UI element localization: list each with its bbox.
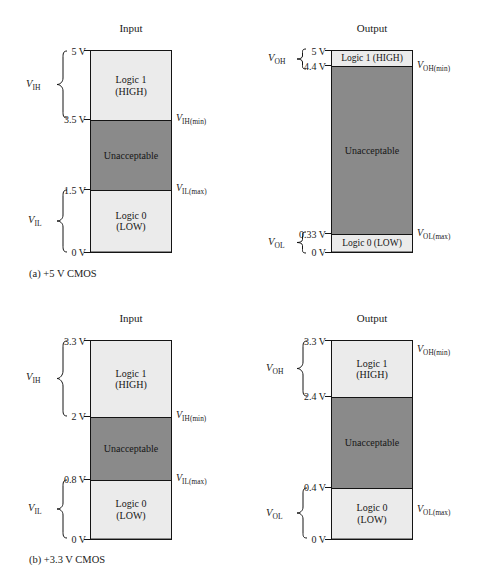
tickmark-a-input-0v [84,252,91,253]
band-unacceptable: Unacceptable [91,418,171,480]
tickmark-b-input-0v [84,539,91,540]
param-b-input-vil-max: VIL(max) [176,472,207,485]
band-logic-high: Logic 1 (HIGH) [91,341,171,417]
brace-a-output-voh [296,48,307,70]
band-logic-low: Logic 0 (LOW) [332,235,412,251]
brace-label-b-input-vil: VIL [28,502,42,515]
tickmark-b-input-3p3v [84,340,91,341]
tickmark-a-output-4p4v [325,65,332,66]
brace-b-output-vol [296,487,308,540]
voltage-bar-b-output: Logic 1 (HIGH) Unacceptable Logic 0 (LOW… [331,340,413,540]
brace-label-a-input-vih: VIH [26,78,41,91]
band-logic-low: Logic 0 (LOW) [91,191,171,251]
brace-label-b-output-voh: VOH [266,362,284,375]
param-b-output-voh-min: VOH(min) [417,343,450,356]
tickmark-a-output-0v [325,252,332,253]
band-logic-high: Logic 1 (HIGH) [91,51,171,120]
tickmark-b-output-2p4v [325,396,332,397]
tickmark-a-input-3p5v [84,119,91,120]
brace-label-a-input-vil: VIL [28,214,42,227]
tickmark-b-output-3p3v [325,340,332,341]
tickmark-a-input-1p5v [84,189,91,190]
brace-a-output-vol [296,231,307,255]
tickmark-a-output-0p33v [325,233,332,234]
voltage-bar-a-input: Logic 1 (HIGH) Unacceptable Logic 0 (LOW… [90,50,172,253]
chart-title-a-input: Input [90,22,172,34]
brace-b-output-voh [296,340,308,397]
brace-a-input-vih [56,50,68,119]
param-a-input-vil-max: VIL(max) [176,182,207,195]
tickmark-b-input-2v [84,416,91,417]
brace-b-input-vil [56,479,68,540]
tickmark-a-input-5v [84,50,91,51]
band-logic-low: Logic 0 (LOW) [332,489,412,538]
brace-label-b-output-vol: VOL [266,507,283,520]
brace-label-a-output-voh: VOH [268,52,286,65]
band-unacceptable: Unacceptable [332,398,412,488]
param-b-input-vih-min: VIH(min) [176,409,206,422]
caption-section-a: (a) +5 V CMOS [29,268,97,279]
param-b-output-vol-max: VOL(max) [417,503,451,516]
brace-a-input-vil [56,189,68,253]
chart-title-b-input: Input [90,312,172,324]
tickmark-b-output-0p4v [325,487,332,488]
param-a-output-voh-min: VOH(min) [417,59,450,72]
brace-label-b-input-vih: VIH [26,371,41,384]
band-logic-high: Logic 1 (HIGH) [332,341,412,397]
brace-b-input-vih [56,340,68,417]
tickmark-a-output-5v [325,50,332,51]
param-a-input-vih-min: VIH(min) [176,112,206,125]
tickmark-b-input-0p8v [84,479,91,480]
chart-title-b-output: Output [331,312,413,324]
chart-title-a-output: Output [331,22,413,34]
band-logic-low: Logic 0 (LOW) [91,481,171,538]
tickmark-b-output-0v [325,539,332,540]
voltage-bar-a-output: Logic 1 (HIGH) Unacceptable Logic 0 (LOW… [331,50,413,253]
voltage-bar-b-input: Logic 1 (HIGH) Unacceptable Logic 0 (LOW… [90,340,172,540]
param-a-output-vol-max: VOL(max) [417,227,451,240]
band-unacceptable: Unacceptable [332,67,412,234]
brace-label-a-output-vol: VOL [268,236,285,249]
band-logic-high: Logic 1 (HIGH) [332,51,412,66]
band-unacceptable: Unacceptable [91,121,171,190]
caption-section-b: (b) +3.3 V CMOS [29,554,105,565]
